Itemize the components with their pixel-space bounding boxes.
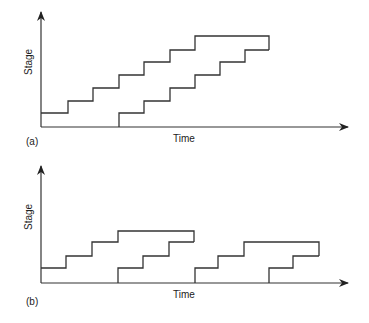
x-axis-label-a: Time <box>173 133 195 144</box>
staircase-group2-lower <box>269 256 319 283</box>
x-axis-label-b: Time <box>173 289 195 300</box>
panel-label-b: (b) <box>26 296 38 307</box>
panel-a: Stage Time (a) <box>23 12 348 147</box>
series-a <box>41 36 269 127</box>
staircase-group2-upper <box>195 242 319 283</box>
diagram: Stage Time (a) Stage Time (b) <box>0 0 369 323</box>
panel-label-a: (a) <box>26 136 38 147</box>
staircase-lower-staircase <box>119 50 269 127</box>
series-b <box>41 231 319 283</box>
staircase-group1-upper <box>41 231 194 268</box>
y-axis-label-a: Stage <box>23 48 34 75</box>
panel-b: Stage Time (b) <box>23 166 348 307</box>
y-axis-label-b: Stage <box>23 203 34 230</box>
staircase-group1-lower <box>118 242 194 283</box>
